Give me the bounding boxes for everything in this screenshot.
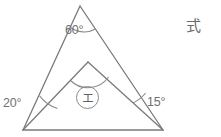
diagram-canvas: 60° 20° 15° エ 式 [0,0,221,137]
right-base-angle-label: 15° [147,96,165,109]
apex-angle-label: 60° [65,24,83,37]
unknown-angle-marker: エ [76,86,101,111]
unknown-angle-label: エ [76,86,99,109]
left-angle-arc [40,96,58,109]
left-base-angle-label: 20° [3,97,21,110]
side-note-label: 式 [186,19,201,34]
outer-triangle-right-side [80,6,163,130]
